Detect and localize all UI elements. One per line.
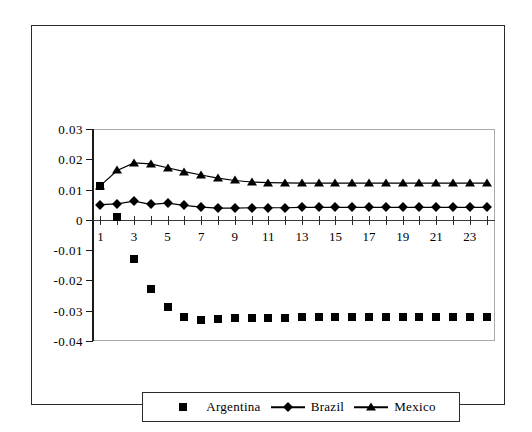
y-axis-tick-label: 0.01	[58, 183, 83, 196]
data-point-argentina	[399, 313, 407, 321]
data-point-mexico	[431, 179, 441, 187]
data-point-mexico	[213, 174, 223, 182]
data-point-argentina	[483, 313, 491, 321]
legend-key-argentina	[166, 401, 200, 413]
y-axis-tick-label: 0.02	[58, 153, 83, 166]
series-line-mexico	[100, 163, 486, 186]
data-point-mexico	[146, 159, 156, 167]
data-point-argentina	[214, 315, 222, 323]
chart-legend: ArgentinaBrazilMexico	[142, 392, 460, 422]
data-point-mexico	[465, 179, 475, 187]
data-point-mexico	[398, 179, 408, 187]
data-point-mexico	[381, 179, 391, 187]
series-line-brazil	[100, 201, 486, 208]
diamond-marker-icon	[283, 402, 293, 412]
data-point-argentina	[197, 316, 205, 324]
data-point-argentina	[382, 313, 390, 321]
data-point-mexico	[230, 176, 240, 184]
data-point-argentina	[298, 313, 306, 321]
plot-area: 0.030.020.010-0.01-0.02-0.03-0.04 135791…	[92, 129, 495, 341]
data-point-mexico	[196, 171, 206, 179]
legend-entry-mexico: Mexico	[354, 399, 436, 415]
y-axis-tick-label: -0.03	[53, 304, 83, 317]
legend-label: Brazil	[311, 399, 345, 415]
data-point-mexico	[364, 179, 374, 187]
data-point-argentina	[130, 255, 138, 263]
y-axis-tick-label: 0	[76, 213, 83, 226]
data-point-mexico	[263, 178, 273, 186]
data-point-argentina	[264, 314, 272, 322]
data-point-argentina	[365, 313, 373, 321]
data-point-mexico	[179, 167, 189, 175]
data-point-argentina	[164, 303, 172, 311]
y-axis-tick	[86, 341, 93, 342]
data-point-argentina	[315, 313, 323, 321]
y-axis-tick-label: 0.03	[58, 123, 83, 136]
data-point-argentina	[449, 313, 457, 321]
data-point-mexico	[247, 178, 257, 186]
y-axis-tick-label: -0.01	[53, 244, 83, 257]
y-axis-tick-label: -0.04	[53, 335, 83, 348]
y-axis-tick-label: -0.02	[53, 274, 83, 287]
data-point-argentina	[231, 314, 239, 322]
data-point-mexico	[95, 181, 105, 189]
data-point-mexico	[330, 179, 340, 187]
data-point-argentina	[432, 313, 440, 321]
data-point-argentina	[180, 313, 188, 321]
chart-figure-frame: 0.030.020.010-0.01-0.02-0.03-0.04 135791…	[31, 25, 505, 405]
data-point-argentina	[415, 313, 423, 321]
legend-key-brazil	[271, 401, 305, 413]
data-point-mexico	[112, 166, 122, 174]
data-point-argentina	[147, 285, 155, 293]
data-point-mexico	[163, 163, 173, 171]
data-point-argentina	[281, 314, 289, 322]
data-point-argentina	[331, 313, 339, 321]
legend-label: Mexico	[394, 399, 436, 415]
data-point-mexico	[414, 179, 424, 187]
data-point-mexico	[482, 179, 492, 187]
data-point-argentina	[466, 313, 474, 321]
data-point-mexico	[129, 159, 139, 167]
data-point-argentina	[248, 314, 256, 322]
legend-entry-brazil: Brazil	[271, 399, 345, 415]
data-point-argentina	[113, 213, 121, 221]
legend-label: Argentina	[206, 399, 260, 415]
data-point-mexico	[314, 179, 324, 187]
legend-key-mexico	[354, 401, 388, 413]
data-point-argentina	[348, 313, 356, 321]
data-point-mexico	[347, 179, 357, 187]
data-point-mexico	[297, 179, 307, 187]
square-marker-icon	[179, 403, 187, 411]
data-point-mexico	[280, 179, 290, 187]
data-point-mexico	[448, 179, 458, 187]
triangle-marker-icon	[366, 403, 376, 411]
legend-entry-argentina: Argentina	[166, 399, 260, 415]
